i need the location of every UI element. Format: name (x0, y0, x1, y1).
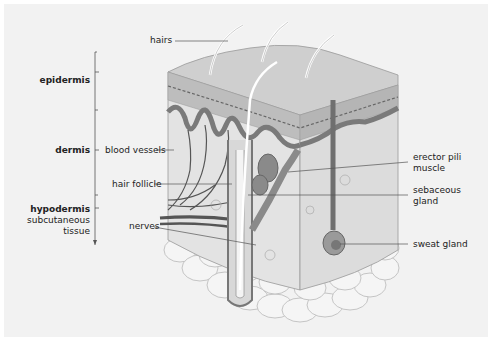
layer-hypodermis-subtitle-2: tissue (63, 226, 90, 237)
layer-epidermis: epidermis (40, 75, 90, 86)
label-nerves: nerves (129, 221, 160, 232)
label-hairs: hairs (150, 35, 172, 46)
label-sweat-gland: sweat gland (413, 239, 468, 250)
label-hair-follicle: hair follicle (112, 179, 161, 190)
label-sebaceous-1: sebaceous (413, 185, 461, 196)
layer-hypodermis-subtitle-1: subcutaneous (27, 215, 90, 226)
label-sebaceous-2: gland (413, 196, 438, 207)
layer-dermis: dermis (55, 145, 90, 156)
layer-bracket (95, 52, 99, 245)
label-blood-vessels: blood vessels (105, 145, 166, 156)
label-erector-pili-1: erector pili (413, 152, 461, 163)
label-erector-pili-2: muscle (413, 163, 445, 174)
layer-hypodermis: hypodermis (30, 204, 90, 215)
